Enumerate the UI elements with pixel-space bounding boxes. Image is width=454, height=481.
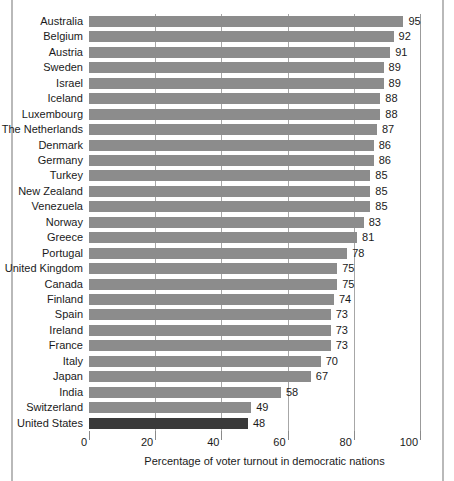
bar-value-label: 67 [316,369,328,383]
category-label: Denmark [38,138,83,152]
bar-value-label: 49 [256,400,268,414]
x-tick-mark-0 [89,431,90,440]
bar [89,78,384,89]
category-label: Austria [49,45,83,59]
x-tick-mark-80 [354,431,355,440]
category-label: Greece [47,230,83,244]
bar-value-label: 48 [253,416,265,430]
bar [89,279,337,290]
bar-value-label: 75 [342,261,354,275]
bar [89,248,347,259]
category-label: Italy [63,354,83,368]
x-tick-label-100: 100 [400,436,418,449]
figure-frame-left-rule [11,0,13,481]
bar [89,47,390,58]
bar [89,186,370,197]
bar-value-label: 85 [375,184,387,198]
category-label: Portugal [42,246,83,260]
category-label: Iceland [48,91,83,105]
category-label: The Netherlands [2,122,83,136]
bar-value-label: 91 [395,45,407,59]
x-tick-mark-40 [221,431,222,440]
category-label: Germany [38,153,83,167]
category-label: Sweden [43,60,83,74]
bar-value-label: 85 [375,199,387,213]
x-axis-label: Percentage of voter turnout in democrati… [89,455,440,467]
category-label: Spain [55,307,83,321]
bar [89,16,403,27]
bar [89,140,374,151]
bar [89,62,384,73]
category-label: Japan [53,369,83,383]
x-tick-label-20: 20 [141,436,153,449]
bar [89,170,370,181]
bar [89,294,334,305]
bar-value-label: 73 [336,338,348,352]
bar [89,109,380,120]
category-label: Luxembourg [22,107,83,121]
bar-value-label: 88 [385,107,397,121]
category-label: United Kingdom [5,261,83,275]
bar-value-label: 81 [362,230,374,244]
category-label: Canada [44,277,83,291]
category-label: Turkey [50,168,83,182]
x-tick-label-40: 40 [207,436,219,449]
x-tick-mark-60 [288,431,289,440]
bar [89,124,377,135]
bar-value-label: 85 [375,168,387,182]
category-label: Australia [40,14,83,28]
category-label: Norway [46,215,83,229]
bar [89,418,248,429]
bar-value-label: 58 [286,385,298,399]
bar-value-label: 73 [336,323,348,337]
bar-value-label: 78 [352,246,364,260]
x-tick-label-60: 60 [273,436,285,449]
category-label: United States [17,416,83,430]
bar-value-label: 86 [379,138,391,152]
category-label: Switzerland [26,400,83,414]
bar-value-label: 88 [385,91,397,105]
bar-value-label: 87 [382,122,394,136]
bar-value-label: 95 [408,14,420,28]
bar-value-label: 73 [336,307,348,321]
bar [89,93,380,104]
bar [89,201,370,212]
bar [89,371,311,382]
category-label: Belgium [43,29,83,43]
bar [89,340,331,351]
x-tick-label-80: 80 [340,436,352,449]
plot-area: Australia95Belgium92Austria91Sweden89Isr… [89,14,420,431]
bar [89,309,331,320]
bar-value-label: 74 [339,292,351,306]
bar [89,155,374,166]
category-label: New Zealand [18,184,83,198]
chart-figure: Australia95Belgium92Austria91Sweden89Isr… [0,0,454,481]
bar-value-label: 89 [389,60,401,74]
bar [89,232,357,243]
figure-frame-right-rule [442,0,444,481]
category-label: India [59,385,83,399]
category-label: Israel [56,76,83,90]
bar [89,387,281,398]
x-axis: 020406080100 [89,431,420,451]
plot-area-right-rule [420,14,421,431]
bar [89,31,394,42]
bar-value-label: 75 [342,277,354,291]
x-tick-mark-100 [420,431,421,440]
bar-value-label: 70 [326,354,338,368]
bar-value-label: 92 [399,29,411,43]
bar-value-label: 86 [379,153,391,167]
x-tick-label-0: 0 [81,436,87,449]
bar-value-label: 89 [389,76,401,90]
x-tick-mark-20 [155,431,156,440]
bar-value-label: 83 [369,215,381,229]
category-label: Finland [47,292,83,306]
bar [89,356,321,367]
bar [89,217,364,228]
bar [89,325,331,336]
bar [89,263,337,274]
bar [89,402,251,413]
category-label: Venezuela [32,199,83,213]
category-label: France [49,338,83,352]
category-label: Ireland [49,323,83,337]
